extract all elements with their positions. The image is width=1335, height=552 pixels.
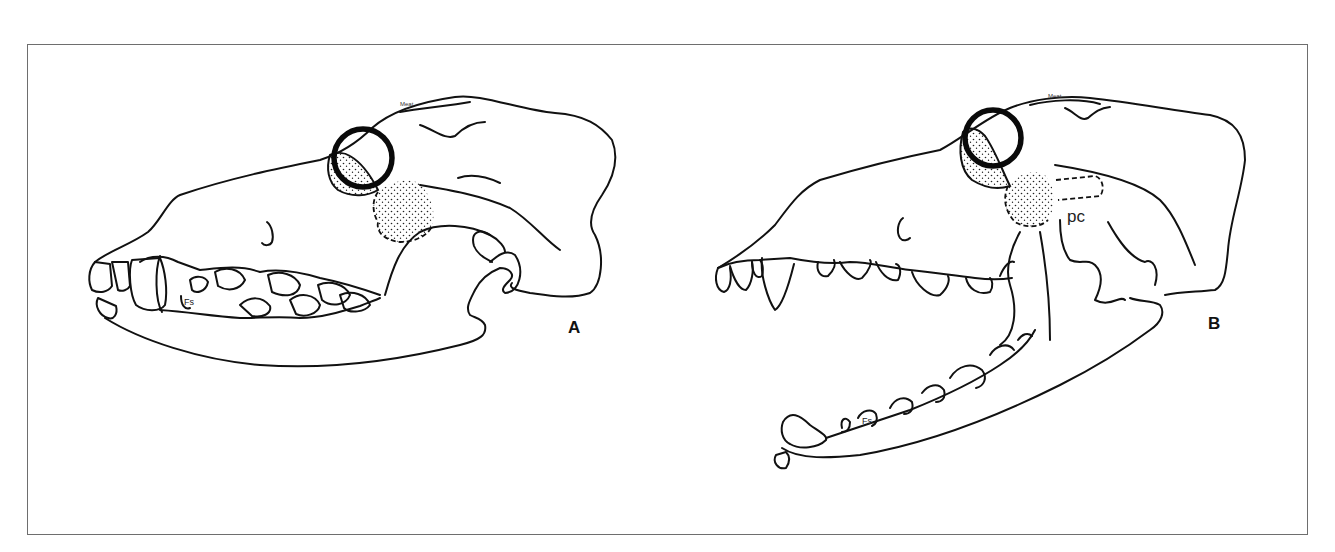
skull-b-lower-teeth: Fs [775, 334, 1032, 468]
skull-b: Fs Meat pc [716, 93, 1245, 468]
panel-label-b: B [1208, 314, 1220, 334]
skull-a-tooth-label: Fs [184, 297, 194, 307]
skull-b-mandible-ramus [1000, 232, 1050, 345]
skull-b-ear-process [1108, 222, 1157, 285]
skull-b-brow [1030, 100, 1100, 105]
skull-a-temporal-ridge [458, 176, 500, 183]
skull-a-teeth: Fs [89, 256, 370, 318]
figure-canvas: Fs Meat [0, 0, 1335, 552]
skull-a-orbit-notch [420, 122, 485, 137]
skull-b-stipple-orbit [960, 129, 1010, 188]
skull-a-ramus [473, 232, 492, 262]
panel-label-a: A [568, 318, 580, 338]
skull-a-cranium-outline [95, 96, 615, 296]
skull-b-annotation: Meat [1048, 93, 1062, 99]
skull-b-infraorbital-foramen [898, 218, 910, 240]
skull-a-mandible [105, 253, 520, 367]
skull-a-annotation: Meat [400, 101, 414, 107]
skull-a-stipple-gland [374, 180, 434, 242]
skull-a-zygomatic-arch [420, 185, 560, 250]
skull-a: Fs Meat [89, 96, 615, 366]
skull-b-tooth-label: Fs [862, 416, 872, 426]
skull-b-orbit-notch [1065, 107, 1110, 119]
skull-a-infraorbital-foramen [262, 222, 273, 245]
skull-b-upper-teeth [716, 258, 1014, 310]
skull-b-cranium-outline [718, 97, 1245, 295]
skull-b-pc-label: pc [1067, 207, 1085, 226]
skull-a-upper-tooth-row [140, 257, 380, 295]
